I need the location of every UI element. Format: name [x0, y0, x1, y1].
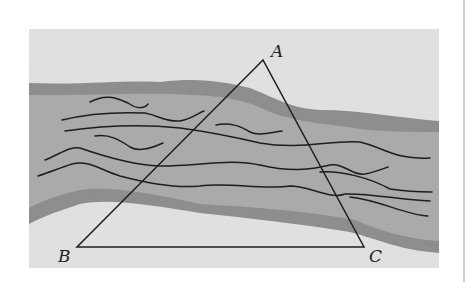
scene [29, 29, 439, 268]
river-triangle-diagram: A B C [0, 0, 467, 282]
vertex-label-b: B [57, 246, 71, 266]
vertex-label-c: C [369, 246, 382, 266]
page-divider-line [463, 0, 465, 282]
vertex-label-a: A [269, 41, 283, 61]
